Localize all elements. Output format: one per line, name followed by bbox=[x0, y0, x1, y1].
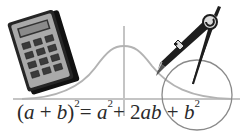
formula-a-exponent: 2 bbox=[107, 97, 113, 109]
formula-a: a bbox=[24, 100, 35, 124]
formula-plus-two: + 2 bbox=[113, 100, 141, 124]
formula-b: b bbox=[57, 100, 68, 124]
compass-icon bbox=[156, 6, 221, 84]
math-illustration: (a + b)2= a2+ 2ab + b2 bbox=[0, 0, 251, 134]
formula-lhs-exponent: 2 bbox=[74, 97, 80, 109]
formula-ab: ab bbox=[141, 100, 162, 124]
formula-a-squared: a bbox=[97, 100, 108, 124]
binomial-formula: (a + b)2= a2+ 2ab + b2 bbox=[17, 100, 200, 125]
formula-plus: + bbox=[35, 100, 57, 124]
formula-b-squared: b bbox=[184, 100, 195, 124]
formula-plus-final: + bbox=[162, 100, 184, 124]
calculator-icon bbox=[7, 8, 80, 96]
formula-lhs-open: ( bbox=[17, 100, 24, 124]
formula-b-exponent: 2 bbox=[194, 97, 200, 109]
formula-equals: = bbox=[80, 100, 97, 124]
